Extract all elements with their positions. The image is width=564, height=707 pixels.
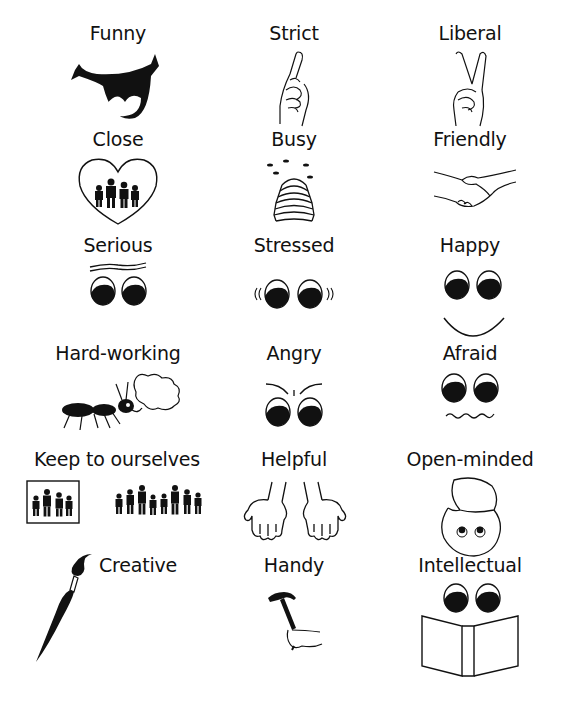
cell-friendly: Friendly <box>376 126 564 226</box>
label-happy: Happy <box>376 234 564 256</box>
ant-carrying-load-icon <box>60 372 184 430</box>
cell-liberal: Liberal <box>376 20 564 125</box>
label-keep-to-ourselves: Keep to ourselves <box>2 448 232 470</box>
cell-busy: Busy <box>200 126 388 226</box>
cell-helpful: Helpful <box>200 446 388 546</box>
cell-funny: Funny <box>24 20 212 125</box>
cell-open-minded: Open-minded <box>376 446 564 546</box>
eyes-reading-book-icon <box>418 582 522 680</box>
label-stressed: Stressed <box>200 234 388 256</box>
handshake-icon <box>432 168 518 214</box>
label-hard-working: Hard-working <box>24 342 212 364</box>
label-busy: Busy <box>200 128 388 150</box>
cell-stressed: Stressed <box>200 232 388 337</box>
boxed-family-icon <box>26 480 226 528</box>
cell-angry: Angry <box>200 340 388 440</box>
cell-hard-working: Hard-working <box>24 340 212 440</box>
book-outline <box>422 616 518 676</box>
cell-intellectual: Intellectual <box>376 552 564 702</box>
label-helpful: Helpful <box>200 448 388 470</box>
cell-close: Close <box>24 126 212 226</box>
angry-eyes-icon <box>262 380 326 430</box>
label-open-minded: Open-minded <box>376 448 564 470</box>
cell-happy: Happy <box>376 232 564 337</box>
stressed-eyes-icon <box>251 276 337 312</box>
label-friendly: Friendly <box>376 128 564 150</box>
label-intellectual: Intellectual <box>376 554 564 576</box>
label-afraid: Afraid <box>376 342 564 364</box>
label-liberal: Liberal <box>376 22 564 44</box>
peace-sign-hand-icon <box>448 50 492 126</box>
label-strict: Strict <box>200 22 388 44</box>
label-close: Close <box>24 128 212 150</box>
cell-keep-to-ourselves: Keep to ourselves <box>2 446 232 546</box>
label-serious: Serious <box>24 234 212 256</box>
cell-creative: Creative <box>24 552 212 702</box>
hammer-in-hand-icon <box>266 590 326 652</box>
afraid-face-icon <box>438 372 502 424</box>
laughing-mouth-icon <box>69 52 169 122</box>
serious-eyes-icon <box>86 259 150 309</box>
open-head-icon <box>438 476 504 558</box>
cropped-title-fragment <box>0 0 564 6</box>
beehive-icon <box>264 159 324 225</box>
paintbrush-icon <box>32 550 92 664</box>
label-handy: Handy <box>200 554 388 576</box>
pointing-finger-icon <box>274 50 314 126</box>
cell-handy: Handy <box>200 552 388 702</box>
cell-afraid: Afraid <box>376 340 564 440</box>
heart-with-family-icon <box>76 158 160 226</box>
cell-serious: Serious <box>24 232 212 337</box>
label-angry: Angry <box>200 342 388 364</box>
label-funny: Funny <box>24 22 212 44</box>
smiling-face-icon <box>438 268 508 342</box>
cell-strict: Strict <box>200 20 388 125</box>
open-hands-icon <box>240 480 350 542</box>
